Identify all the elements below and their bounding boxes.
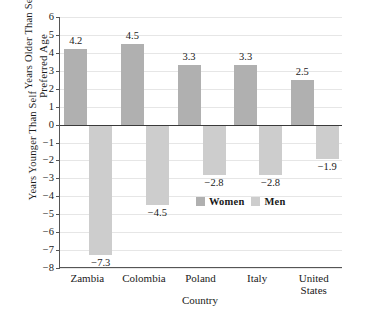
- bar-women-italy: [234, 65, 257, 124]
- y-axis-tick-label: −3: [32, 173, 54, 184]
- legend-entry-women: Women: [196, 196, 244, 207]
- y-axis-tick: [56, 71, 60, 72]
- y-axis-tick: [56, 178, 60, 179]
- bar-men-poland: [203, 125, 226, 175]
- y-axis-tick: [56, 232, 60, 233]
- y-axis-tick: [56, 268, 60, 269]
- y-axis-tick: [56, 250, 60, 251]
- bar-value-label: 4.2: [69, 36, 82, 47]
- legend-entry-men: Men: [251, 196, 285, 207]
- chart-legend: WomenMen: [196, 196, 285, 207]
- y-axis-tick: [56, 196, 60, 197]
- bar-value-label: 3.3: [239, 52, 252, 63]
- y-axis-tick-label: 0: [32, 119, 54, 130]
- bar-value-label: −4.5: [148, 208, 167, 219]
- bar-men-colombia: [146, 125, 169, 206]
- gridline: [60, 53, 342, 54]
- bar-value-label: 2.5: [296, 67, 309, 78]
- bar-men-united-states: [316, 125, 339, 159]
- y-axis-tick: [56, 214, 60, 215]
- bar-women-colombia: [121, 44, 144, 125]
- y-axis-tick: [56, 107, 60, 108]
- zero-axis-line: [60, 125, 342, 126]
- y-axis-tick-label: −4: [32, 191, 54, 202]
- bar-value-label: 4.5: [126, 31, 139, 42]
- y-axis-tick-label: 6: [32, 12, 54, 23]
- legend-swatch-icon: [251, 197, 260, 206]
- y-axis-tick-label: −6: [32, 227, 54, 238]
- legend-label: Men: [264, 196, 285, 207]
- y-axis-tick-label: −7: [32, 245, 54, 256]
- legend-label: Women: [209, 196, 244, 207]
- x-axis-category-label: Italy: [247, 272, 267, 284]
- y-axis-tick-label: 3: [32, 66, 54, 77]
- bar-chart: Preferred Age Years Older Than Self Year…: [0, 0, 370, 315]
- plot-area: 6543210−1−2−3−4−5−6−7−84.2−7.34.5−4.53.3…: [59, 17, 342, 268]
- bar-value-label: −2.8: [261, 178, 280, 189]
- bar-men-italy: [259, 125, 282, 175]
- plot-inner: 6543210−1−2−3−4−5−6−7−84.2−7.34.5−4.53.3…: [60, 17, 342, 267]
- bar-women-united-states: [291, 80, 314, 125]
- y-axis-tick-label: 1: [32, 101, 54, 112]
- bar-value-label: −1.9: [318, 162, 337, 173]
- gridline: [60, 17, 342, 18]
- y-axis-tick-label: 4: [32, 48, 54, 59]
- bar-value-label: 3.3: [182, 52, 195, 63]
- y-axis-tick: [56, 35, 60, 36]
- title-remnant: [0, 0, 370, 6]
- y-axis-tick-label: 2: [32, 83, 54, 94]
- bar-value-label: −2.8: [204, 178, 223, 189]
- y-axis-tick: [56, 143, 60, 144]
- x-axis-category-label: United States: [299, 272, 329, 297]
- x-axis-category-label: Zambia: [70, 272, 104, 284]
- y-axis-tick-label: −8: [32, 263, 54, 274]
- y-axis-tick: [56, 89, 60, 90]
- y-axis-tick: [56, 17, 60, 18]
- bar-women-poland: [178, 65, 201, 124]
- legend-swatch-icon: [196, 197, 205, 206]
- bar-women-zambia: [64, 49, 87, 124]
- y-axis-tick-label: −5: [32, 209, 54, 220]
- bar-value-label: −7.3: [91, 258, 110, 269]
- x-axis-category-label: Poland: [185, 272, 216, 284]
- y-axis-tick-label: −2: [32, 155, 54, 166]
- y-axis-tick: [56, 53, 60, 54]
- y-axis-tick: [56, 160, 60, 161]
- x-axis-category-label: Colombia: [122, 272, 165, 284]
- gridline: [60, 35, 342, 36]
- bar-men-zambia: [89, 125, 112, 256]
- y-axis-tick-label: −1: [32, 137, 54, 148]
- y-axis-tick-label: 5: [32, 30, 54, 41]
